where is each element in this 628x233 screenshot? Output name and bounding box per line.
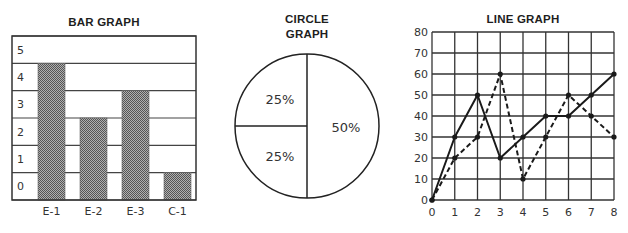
bar-y-tick: 1 <box>17 153 24 166</box>
line-point-marker <box>452 155 457 160</box>
line-x-tick: 0 <box>429 206 436 219</box>
bar-y-tick: 2 <box>17 126 24 139</box>
line-point-marker <box>543 134 548 139</box>
bar-c-1 <box>164 173 191 200</box>
line-point-marker <box>589 92 594 97</box>
line-point-marker <box>543 113 548 118</box>
line-x-tick: 3 <box>497 206 504 219</box>
bar-y-tick: 0 <box>17 180 24 193</box>
line-y-tick: 0 <box>421 194 428 207</box>
bar-x-label: E-2 <box>85 205 103 218</box>
line-point-marker <box>520 134 525 139</box>
bar-x-label: E-1 <box>43 205 61 218</box>
line-y-tick: 60 <box>414 68 428 81</box>
bar-e-2 <box>80 118 107 200</box>
bar-y-tick: 4 <box>17 71 24 84</box>
line-point-marker <box>429 197 434 202</box>
line-point-marker <box>566 113 571 118</box>
bar-graph: 543210E-1E-2E-3C-1 <box>12 36 196 218</box>
pie-slice-label: 50% <box>332 120 361 135</box>
circle-graph: 25%25%50% <box>235 54 379 198</box>
charts-canvas: 543210E-1E-2E-3C-1 25%25%50% 01020304050… <box>0 0 628 233</box>
pie-slice-label: 25% <box>266 149 295 164</box>
line-point-marker <box>475 134 480 139</box>
line-point-marker <box>611 134 616 139</box>
bar-y-tick: 5 <box>17 44 24 57</box>
bar-x-label: E-3 <box>127 205 145 218</box>
line-y-tick: 10 <box>414 173 428 186</box>
line-y-tick: 20 <box>414 152 428 165</box>
line-point-marker <box>566 92 571 97</box>
line-point-marker <box>498 71 503 76</box>
line-y-tick: 80 <box>414 26 428 39</box>
line-point-marker <box>611 71 616 76</box>
line-y-tick: 40 <box>414 110 428 123</box>
line-y-tick: 70 <box>414 47 428 60</box>
line-x-tick: 7 <box>588 206 595 219</box>
line-point-marker <box>589 113 594 118</box>
line-x-tick: 5 <box>542 206 549 219</box>
line-x-tick: 1 <box>451 206 458 219</box>
line-point-marker <box>520 176 525 181</box>
line-y-tick: 30 <box>414 131 428 144</box>
line-point-marker <box>475 92 480 97</box>
line-x-tick: 2 <box>474 206 481 219</box>
bar-y-tick: 3 <box>17 98 24 111</box>
line-x-tick: 8 <box>611 206 618 219</box>
line-point-marker <box>452 134 457 139</box>
pie-slice-label: 25% <box>266 92 295 107</box>
line-x-tick: 6 <box>565 206 572 219</box>
line-point-marker <box>498 155 503 160</box>
bar-x-label: C-1 <box>168 205 187 218</box>
line-x-tick: 4 <box>520 206 527 219</box>
bar-e-3 <box>122 91 149 200</box>
line-y-tick: 50 <box>414 89 428 102</box>
bar-e-1 <box>38 63 65 200</box>
line-graph: 01020304050607080012345678 <box>414 26 618 219</box>
